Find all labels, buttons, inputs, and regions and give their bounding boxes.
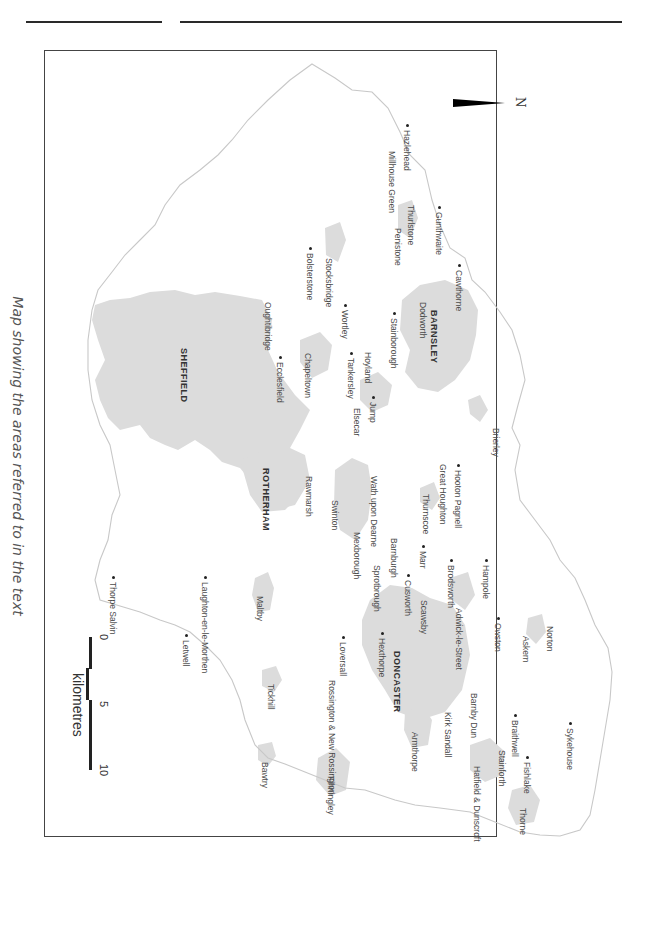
place-dot-icon (485, 559, 488, 562)
place-label: Hooton Pagnell (454, 470, 463, 528)
place-label: Hoyland (364, 352, 373, 383)
place-label: Barnby Dun (470, 693, 479, 738)
place-label: Scawsby (420, 600, 429, 634)
place-label: Maltby (256, 596, 265, 621)
place-label: Thorne (519, 808, 528, 835)
place-label: Dodworth (419, 302, 428, 338)
place-label: Owston (494, 623, 503, 652)
place-label: Chapeltown (304, 353, 313, 398)
place-label: Bawtry (261, 762, 270, 788)
place-dot-icon (350, 352, 353, 355)
place-dot-icon (381, 632, 384, 635)
place-label: Mexborough (353, 532, 362, 579)
place-dot-icon (458, 264, 461, 267)
place-label: Tickhill (267, 684, 276, 710)
place-label: Kirk Sandall (444, 712, 453, 757)
place-dot-icon (407, 574, 410, 577)
place-label: Norton (546, 626, 555, 652)
place-label: Adwick-le-Street (455, 608, 464, 670)
place-label: Marr (419, 551, 428, 568)
place-label: Cawthorne (455, 270, 464, 311)
place-dot-icon (438, 206, 441, 209)
place-label: Thurlstone (407, 205, 416, 245)
place-dot-icon (514, 714, 517, 717)
place-dot-icon (112, 576, 115, 579)
urban-barnsley (400, 280, 478, 392)
scale-tick-5: 5 (98, 701, 109, 707)
place-label: Hampole (482, 565, 491, 599)
north-label: N (514, 97, 526, 108)
place-label: Cusworth (404, 580, 413, 616)
place-label: Brierley (492, 428, 501, 457)
major-town-label: SHEFFIELD (179, 348, 188, 403)
place-dot-icon (185, 634, 188, 637)
place-label: Ecclesfield (276, 362, 285, 403)
place-dot-icon (279, 356, 282, 359)
place-label: Armthorpe (411, 732, 420, 772)
place-label: Hazlehead (403, 130, 412, 171)
place-label: Millhouse Green (388, 151, 397, 213)
place-label: Braithwell (511, 720, 520, 757)
place-label: Laughton-en-le-Morthen (201, 582, 210, 673)
place-label: Sprotbrough (373, 565, 382, 612)
place-label: Bolsterstone (306, 253, 315, 300)
major-town-label: BARNSLEY (429, 310, 438, 364)
place-label: Brodsworth (447, 565, 456, 608)
place-label: Elsecar (353, 408, 362, 436)
place-label: Sykehouse (566, 728, 575, 770)
place-label: Loversall (339, 642, 348, 676)
place-label: Jump (369, 402, 378, 423)
county-boundary (88, 64, 612, 836)
scale-bar (86, 637, 92, 770)
place-label: Oughtibridge (264, 302, 273, 351)
place-dot-icon (342, 636, 345, 639)
place-label: Stainforth (498, 750, 507, 786)
place-label: Stocksbridge (325, 258, 334, 307)
place-dot-icon (406, 124, 409, 127)
place-label: Fishlake (523, 762, 532, 794)
map-canvas (0, 0, 648, 927)
place-label: Gunthwaite (435, 212, 444, 255)
place-label: Hatfield & Dunscroft (473, 766, 482, 842)
place-label: Thurnscoe (422, 494, 431, 534)
place-label: Barnburgh (390, 538, 399, 578)
scale-tick-0: 0 (98, 634, 109, 640)
place-dot-icon (422, 545, 425, 548)
place-dot-icon (526, 756, 529, 759)
place-dot-icon (372, 396, 375, 399)
place-dot-icon (497, 617, 500, 620)
place-dot-icon (309, 247, 312, 250)
place-dot-icon (569, 722, 572, 725)
place-label: Rawmarsh (305, 476, 314, 517)
place-label: Wath upon Dearne (370, 476, 379, 547)
scale-unit-label: kilometres (71, 673, 85, 737)
place-dot-icon (204, 576, 207, 579)
place-label: Swinton (331, 500, 340, 530)
place-label: Great Houghton (439, 464, 448, 524)
place-label: Askern (522, 636, 531, 662)
place-dot-icon (450, 559, 453, 562)
north-arrow-icon (453, 99, 505, 107)
place-label: Thorpe Salvin (109, 582, 118, 634)
place-dot-icon (344, 304, 347, 307)
place-label: Finningley (327, 776, 336, 815)
place-dot-icon (457, 464, 460, 467)
major-town-label: DONCASTER (392, 651, 401, 713)
scale-tick-10: 10 (98, 764, 109, 776)
place-label: Penistone (394, 228, 403, 266)
place-dot-icon (393, 312, 396, 315)
place-label: Letwell (182, 640, 191, 666)
place-label: Stainborough (390, 318, 399, 369)
major-town-label: ROTHERHAM (261, 468, 270, 531)
place-label: Tankersley (347, 358, 356, 399)
place-label: Wortley (341, 310, 350, 339)
place-label: Hexthorpe (378, 638, 387, 677)
